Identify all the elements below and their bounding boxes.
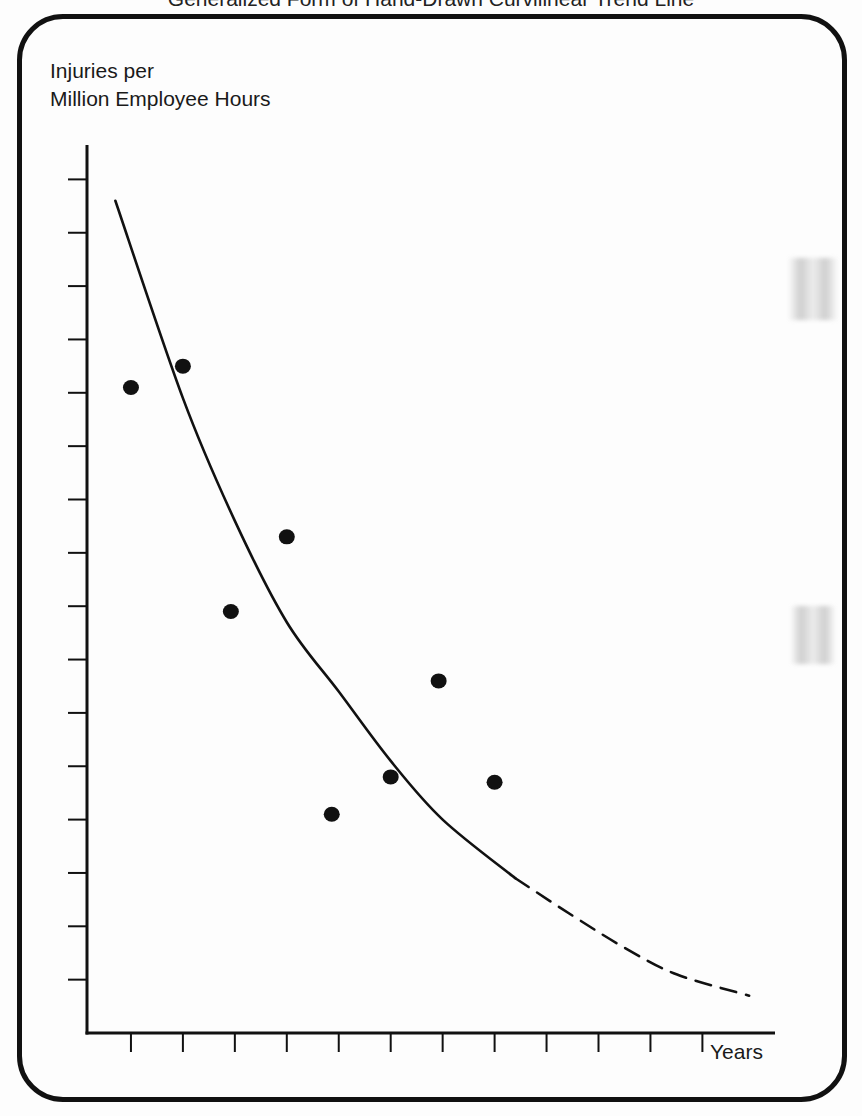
data-point xyxy=(175,359,191,374)
data-point xyxy=(431,673,447,688)
data-point xyxy=(279,529,295,544)
data-points xyxy=(123,359,503,822)
trend-line xyxy=(115,201,749,996)
axes xyxy=(68,145,775,1052)
data-point xyxy=(383,769,399,784)
x-axis-label: Years xyxy=(710,1040,763,1064)
data-point xyxy=(223,604,239,619)
data-point xyxy=(487,775,503,790)
chart-plot xyxy=(0,0,862,1116)
trend-curve xyxy=(115,201,515,879)
data-point xyxy=(123,380,139,395)
projected-trend-line xyxy=(515,878,749,995)
data-point xyxy=(324,807,340,822)
